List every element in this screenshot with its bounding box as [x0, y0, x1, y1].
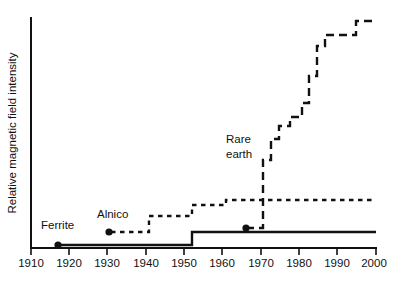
x-axis-ticks: [31, 248, 376, 255]
x-tick-label-2000: 2000: [361, 257, 387, 269]
x-tick-label-1970: 1970: [248, 257, 274, 269]
x-tick-label-1960: 1960: [209, 257, 235, 269]
x-tick-label-1910: 1910: [18, 257, 44, 269]
series-line-rare-earth: [246, 21, 376, 228]
series-marker-rare-earth: [242, 224, 249, 231]
annotation-label-alnico: Alnico: [97, 208, 128, 220]
series-line-ferrite: [58, 232, 376, 245]
x-tick-label-1930: 1930: [94, 257, 120, 269]
x-tick-label-1920: 1920: [56, 257, 82, 269]
series-marker-alnico: [105, 228, 112, 235]
series-marker-ferrite: [54, 241, 61, 248]
x-tick-label-1940: 1940: [133, 257, 159, 269]
annotation-label-ferrite: Ferrite: [41, 219, 74, 231]
x-tick-label-1980: 1980: [286, 257, 312, 269]
annotation-label-rare-earth-line2: earth: [226, 148, 252, 160]
annotation-label-rare-earth-line1: Rare: [226, 133, 251, 145]
x-tick-label-1950: 1950: [171, 257, 197, 269]
magnetic-field-intensity-chart: 1910 1920 1930 1940 1950 1960 1970 1980 …: [0, 0, 397, 288]
chart-container: 1910 1920 1930 1940 1950 1960 1970 1980 …: [0, 0, 397, 288]
x-axis-tick-labels: 1910 1920 1930 1940 1950 1960 1970 1980 …: [18, 257, 387, 269]
y-axis-title: Relative magnetic field intensity: [6, 52, 18, 213]
x-tick-label-1990: 1990: [324, 257, 350, 269]
